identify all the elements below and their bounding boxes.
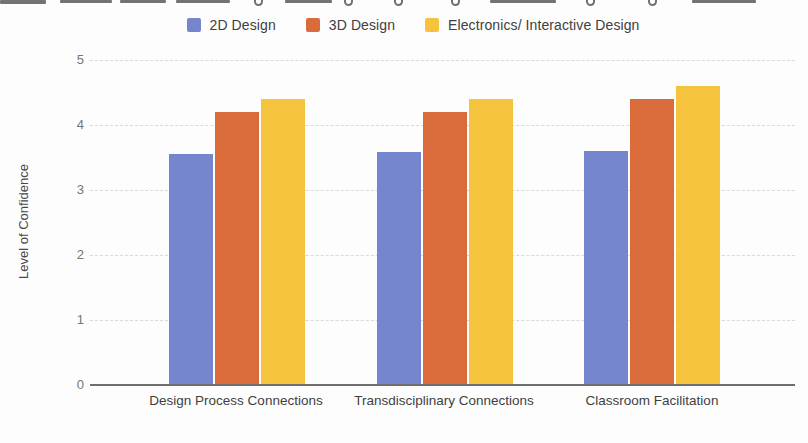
cropped-text-fragment <box>648 0 657 6</box>
gridline-5 <box>90 60 795 61</box>
category-label-classroom-facilitation: Classroom Facilitation <box>562 392 742 409</box>
legend-item-2d-design: 2D Design <box>187 17 276 33</box>
cropped-text-fragment <box>254 0 263 6</box>
legend-label: Electronics/ Interactive Design <box>448 17 639 33</box>
bar-2d-design-0 <box>169 154 213 385</box>
y-tick-4: 4 <box>58 117 84 132</box>
cropped-text-fragment <box>344 0 353 6</box>
cropped-text-fragment <box>176 0 230 3</box>
y-tick-1: 1 <box>58 312 84 327</box>
legend-swatch-3d-design-icon <box>306 18 320 32</box>
legend-swatch-electronics-icon <box>425 18 439 32</box>
category-label-transdisciplinary-connections: Transdisciplinary Connections <box>354 392 534 409</box>
cropped-text-fragment <box>451 0 460 6</box>
cropped-text-fragment <box>60 0 112 3</box>
bar-3d-design-0 <box>215 112 259 385</box>
cropped-text-fragment <box>120 0 166 3</box>
y-tick-3: 3 <box>58 182 84 197</box>
legend-item-electronics-interactive-design: Electronics/ Interactive Design <box>425 17 639 33</box>
cropped-text-fragment <box>285 0 332 3</box>
plot-area <box>90 55 795 400</box>
bar-electronics-interactive-design-1 <box>469 99 513 385</box>
y-tick-5: 5 <box>58 52 84 67</box>
cropped-text-fragment <box>586 0 595 6</box>
bar-electronics-interactive-design-0 <box>261 99 305 385</box>
cropped-text-fragment <box>394 0 403 6</box>
y-axis-title: Level of Confidence <box>16 142 31 302</box>
bar-3d-design-2 <box>630 99 674 385</box>
legend-swatch-2d-design-icon <box>187 18 201 32</box>
legend-label: 2D Design <box>210 17 276 33</box>
bar-chart-figure: 2D Design 3D Design Electronics/ Interac… <box>0 0 808 443</box>
bar-2d-design-1 <box>377 152 421 385</box>
bar-3d-design-1 <box>423 112 467 385</box>
legend-item-3d-design: 3D Design <box>306 17 395 33</box>
cropped-text-fragment <box>692 0 756 3</box>
category-label-design-process-connections: Design Process Connections <box>146 392 326 409</box>
cropped-text-fragment <box>0 0 46 4</box>
legend-label: 3D Design <box>329 17 395 33</box>
bar-electronics-interactive-design-2 <box>676 86 720 385</box>
bar-2d-design-2 <box>584 151 628 385</box>
cropped-text-fragment <box>490 0 556 3</box>
y-tick-0: 0 <box>58 377 84 392</box>
y-tick-2: 2 <box>58 247 84 262</box>
chart-legend: 2D Design 3D Design Electronics/ Interac… <box>0 17 808 33</box>
x-axis-baseline <box>90 384 795 386</box>
